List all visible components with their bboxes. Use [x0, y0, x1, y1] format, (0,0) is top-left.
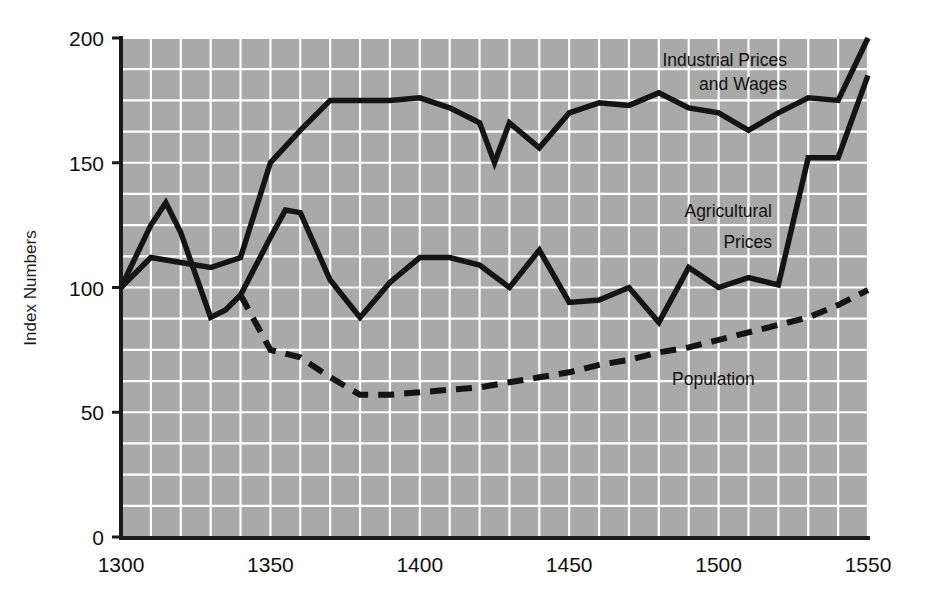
annotation-industrial-line-2: and Wages: [699, 74, 787, 94]
y-tick-label: 50: [81, 401, 104, 424]
x-tick-label: 1300: [98, 553, 145, 576]
annotation-industrial-line-1: Industrial Prices: [663, 50, 788, 70]
y-tick-label: 200: [69, 27, 104, 50]
x-tick-label: 1550: [845, 553, 892, 576]
annotation-population: Population: [672, 369, 755, 389]
annotation-agricultural-line-1: Agricultural: [684, 201, 772, 221]
chart-container: 050100150200 130013501400145015001550 In…: [0, 0, 934, 605]
y-axis-title: Index Numbers: [21, 230, 40, 345]
annotation-population-line-1: Population: [672, 369, 755, 389]
index-numbers-line-chart: 050100150200 130013501400145015001550 In…: [0, 0, 934, 605]
y-tick-label: 150: [69, 152, 104, 175]
x-tick-label: 1400: [396, 553, 443, 576]
x-tick-label: 1450: [546, 553, 593, 576]
x-tick-label: 1500: [695, 553, 742, 576]
y-tick-label: 0: [92, 526, 104, 549]
annotation-agricultural-line-2: Prices: [723, 232, 772, 252]
y-tick-label: 100: [69, 277, 104, 300]
x-tick-label: 1350: [247, 553, 294, 576]
